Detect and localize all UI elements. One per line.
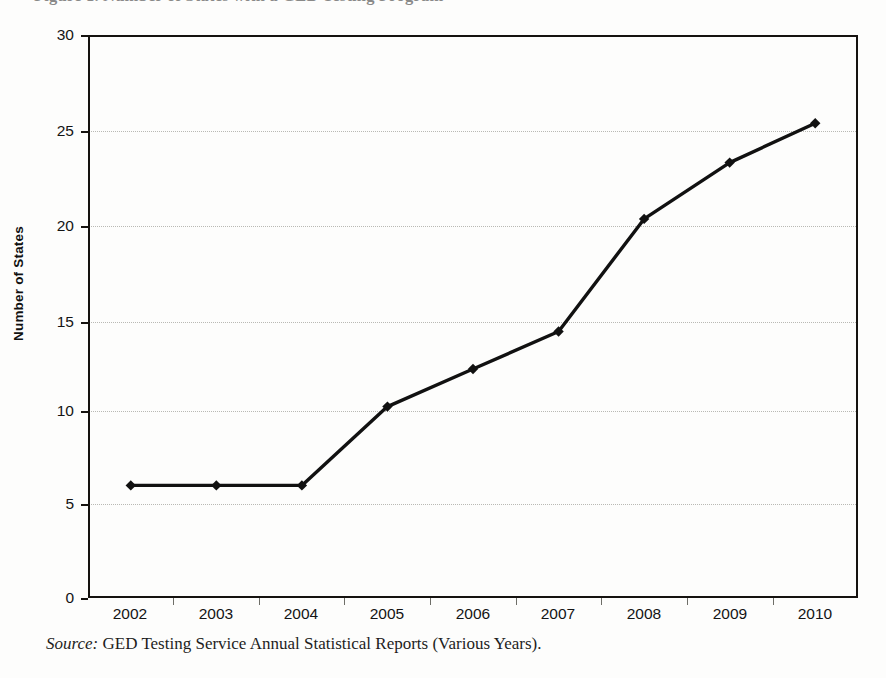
- xtick-mark-6: [601, 598, 602, 605]
- xtick-label-2009: 2009: [687, 606, 773, 622]
- line-chart: 30 25 20 15 10 5 0 Number of States 2002…: [0, 0, 886, 678]
- ytick-mark-15: [81, 322, 88, 324]
- ytick-label-15: 15: [22, 314, 74, 330]
- source-label: Source:: [46, 634, 98, 653]
- xtick-mark-4: [430, 598, 431, 605]
- ytick-label-10: 10: [22, 403, 74, 419]
- ytick-label-0: 0: [22, 590, 74, 606]
- xtick-label-2008: 2008: [601, 606, 687, 622]
- xtick-label-2005: 2005: [344, 606, 430, 622]
- xtick-label-2007: 2007: [515, 606, 601, 622]
- ytick-mark-5: [81, 504, 88, 506]
- ytick-label-20: 20: [22, 218, 74, 234]
- figure-page: Figure 1. Number of States with a GED Te…: [0, 0, 886, 678]
- plot-frame: [88, 35, 858, 598]
- ytick-mark-0: [81, 598, 88, 600]
- xtick-mark-8: [773, 598, 774, 605]
- ytick-mark-30: [81, 35, 88, 37]
- source-note: Source: GED Testing Service Annual Stati…: [46, 634, 542, 654]
- ytick-mark-25: [81, 131, 88, 133]
- ytick-mark-20: [81, 226, 88, 228]
- ytick-label-5: 5: [22, 496, 74, 512]
- xtick-mark-7: [687, 598, 688, 605]
- xtick-label-2004: 2004: [258, 606, 344, 622]
- source-text: GED Testing Service Annual Statistical R…: [98, 634, 541, 653]
- xtick-mark-1: [173, 598, 174, 605]
- xtick-mark-2: [259, 598, 260, 605]
- xtick-mark-5: [516, 598, 517, 605]
- ytick-label-30: 30: [22, 27, 74, 43]
- xtick-mark-3: [344, 598, 345, 605]
- xtick-label-2002: 2002: [87, 606, 173, 622]
- ytick-label-25: 25: [22, 123, 74, 139]
- xtick-label-2006: 2006: [430, 606, 516, 622]
- ytick-mark-10: [81, 411, 88, 413]
- xtick-label-2003: 2003: [173, 606, 259, 622]
- xtick-label-2010: 2010: [772, 606, 858, 622]
- y-axis-title: Number of States: [11, 204, 26, 364]
